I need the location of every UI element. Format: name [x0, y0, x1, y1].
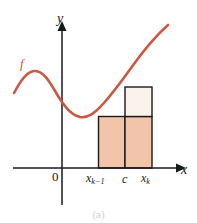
tick-subscript-k: k: [146, 177, 150, 186]
figure-canvas: [0, 0, 197, 223]
tick-label-c: c: [122, 173, 127, 185]
left-shaded-rectangle: [99, 117, 126, 169]
tick-label-x-k: xk: [141, 172, 150, 186]
origin-label: 0: [52, 170, 59, 183]
tick-label-x-k-minus-1: xk−1: [86, 172, 105, 186]
upper-light-rectangle: [125, 87, 152, 117]
right-shaded-rectangle: [125, 117, 152, 169]
x-axis-label: x: [181, 163, 187, 177]
figure-caption: (a): [0, 208, 197, 220]
tick-subscript-k-minus-1: k−1: [91, 177, 104, 186]
y-axis-label: y: [57, 12, 63, 26]
riemann-rectangle-figure: y x f 0 xk−1 c xk (a): [0, 0, 197, 223]
curve-label-f: f: [20, 57, 24, 70]
